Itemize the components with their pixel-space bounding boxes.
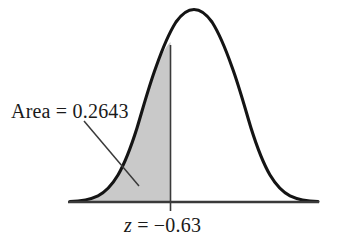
- z-value-text: = −0.63: [132, 214, 201, 236]
- z-value-label: z = −0.63: [124, 215, 201, 235]
- z-variable-glyph: z: [124, 214, 132, 236]
- normal-curve-figure: Area = 0.2643 z = −0.63: [0, 0, 350, 239]
- area-label: Area = 0.2643: [11, 101, 129, 121]
